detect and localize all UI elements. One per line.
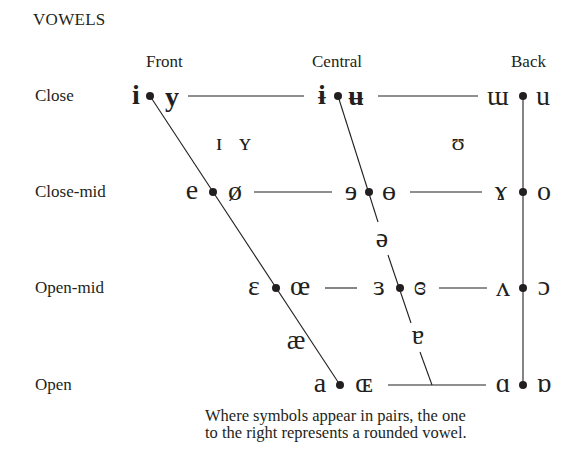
vowel-o-slash: ø bbox=[228, 177, 242, 205]
vowel-open-o: ɔ bbox=[538, 272, 550, 300]
dot-open-mid-central bbox=[396, 284, 404, 292]
vowel-barred-i: ɨ bbox=[318, 81, 326, 109]
vowel-oe-ligature: œ bbox=[290, 272, 310, 300]
column-header-central: Central bbox=[312, 52, 362, 72]
chart-title: VOWELS bbox=[33, 10, 106, 30]
dot-open-front bbox=[336, 381, 344, 389]
central-diagonal-line-3 bbox=[420, 352, 432, 385]
vowel-ash: æ bbox=[287, 326, 306, 354]
rounding-note: Where symbols appear in pairs, the one t… bbox=[205, 407, 467, 441]
vowel-epsilon: ɛ bbox=[248, 272, 260, 300]
vowel-upsilon: ʊ bbox=[451, 130, 464, 154]
vowel-rams-horn: ɤ bbox=[495, 177, 507, 205]
vowel-schwa: ə bbox=[376, 224, 388, 252]
vowel-script-a: ɑ bbox=[496, 369, 511, 397]
dot-close-central bbox=[334, 92, 342, 100]
vowel-small-cap-y: ʏ bbox=[239, 130, 251, 154]
vowel-small-cap-oe: ɶ bbox=[355, 369, 373, 397]
vowel-u: u bbox=[536, 82, 550, 110]
vowel-small-cap-i: ɪ bbox=[216, 130, 223, 154]
rounding-note-line-1: Where symbols appear in pairs, the one bbox=[205, 407, 467, 424]
vowel-reversed-epsilon: ɜ bbox=[373, 272, 385, 300]
row-label-open: Open bbox=[35, 375, 72, 395]
vowel-turned-v: ʌ bbox=[496, 273, 510, 301]
dot-close-mid-back bbox=[519, 188, 527, 196]
dot-open-mid-back bbox=[519, 284, 527, 292]
vowel-e: e bbox=[186, 176, 198, 204]
column-header-front: Front bbox=[146, 52, 183, 72]
row-label-close: Close bbox=[35, 86, 74, 106]
rounding-note-line-2: to the right represents a rounded vowel. bbox=[205, 424, 467, 441]
dot-close-back bbox=[519, 92, 527, 100]
dot-open-mid-front bbox=[272, 284, 280, 292]
dot-close-front bbox=[146, 92, 154, 100]
vowel-turned-script-a: ɒ bbox=[537, 369, 552, 397]
vowel-y: y bbox=[165, 83, 179, 111]
vowel-closed-reversed-epsilon: ɞ bbox=[414, 272, 426, 300]
row-label-close-mid: Close-mid bbox=[35, 182, 106, 202]
vowel-i: i bbox=[132, 81, 140, 109]
row-label-open-mid: Open-mid bbox=[35, 278, 104, 298]
vowel-reversed-e: ɘ bbox=[345, 177, 357, 205]
column-header-back: Back bbox=[511, 52, 546, 72]
vowel-barred-o: ɵ bbox=[382, 177, 396, 205]
vowel-turned-m: ɯ bbox=[487, 82, 509, 110]
dot-open-back bbox=[519, 381, 527, 389]
vowel-o: o bbox=[537, 177, 551, 205]
dot-close-mid-central bbox=[365, 188, 373, 196]
vowel-a: a bbox=[314, 369, 326, 397]
vowel-turned-a: ɐ bbox=[412, 321, 424, 349]
vowel-barred-u: ʉ bbox=[348, 82, 364, 110]
dot-close-mid-front bbox=[209, 188, 217, 196]
